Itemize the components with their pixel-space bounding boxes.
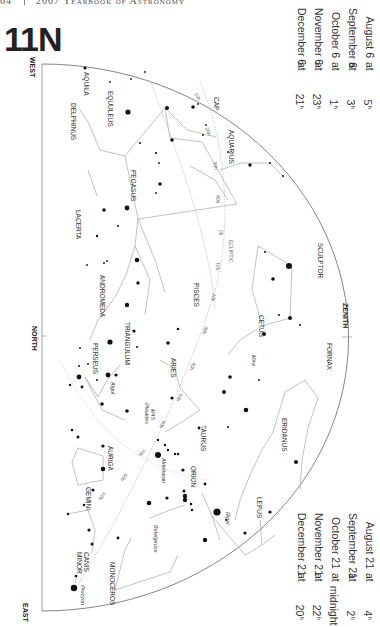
ecliptic-mark: 30h	[212, 161, 219, 170]
label-lacerta: LACERTA	[75, 210, 82, 240]
label-taurus: TAURUS	[200, 425, 207, 452]
ecliptic-mark: 10h	[215, 262, 222, 271]
label-m45: M45	[150, 409, 156, 421]
label-lepus: LEPUS	[256, 497, 263, 519]
label-triangulum: TRIANGULUM	[124, 322, 131, 365]
label-pisces: PISCES	[193, 283, 200, 308]
label-fornax: FORNAX	[326, 343, 333, 371]
label-perseus: PERSEUS	[92, 343, 99, 375]
label-pleiades: Pleiades	[144, 403, 150, 424]
label-gemini: GEMINI	[85, 487, 92, 510]
label-betelgeuse: Betelgeuse	[153, 525, 159, 553]
label-delphinus: DELPHINUS	[70, 103, 77, 141]
label-aquarius: AQUARIUS	[227, 130, 235, 165]
label-algol: Algol	[110, 381, 116, 395]
ecliptic-mark: 80h	[119, 472, 129, 482]
constellation-lines	[68, 108, 318, 590]
label-rigel: Rigel	[225, 512, 231, 525]
ecliptic-mark: 0h	[218, 230, 224, 236]
label-aries: ARIES	[170, 358, 177, 378]
ecliptic-mark: 40h	[188, 362, 197, 372]
ecliptic-mark: 70h	[137, 447, 147, 457]
label-mira: Mira	[251, 355, 257, 366]
label-canis-minor-2: MINOR	[76, 552, 83, 574]
label-orion: ORION	[190, 466, 197, 488]
label-sculptor: SCULPTOR	[317, 243, 324, 279]
label-canis-minor-1: CANIS	[83, 552, 90, 573]
ecliptic-mark: 30h	[201, 326, 210, 336]
label-eridanus: ERIDANUS	[281, 418, 288, 452]
label-aldebaran: Aldebaran	[161, 457, 167, 483]
label-andromeda: ANDROMEDA	[99, 275, 106, 318]
ecliptic-mark: 20h	[210, 293, 218, 303]
ecliptic-mark: 40h	[215, 195, 221, 204]
label-auriga: AURIGA	[107, 446, 114, 472]
label-cetus: CETUS	[258, 315, 265, 338]
label-pegasus: PEGASUS	[130, 170, 137, 202]
ecliptic-mark: 20h	[204, 126, 213, 136]
star-map: WEST NORTH EAST ZENITH AQUILA DELPHINUS …	[0, 0, 380, 627]
milky-way-line	[60, 360, 210, 480]
label-equuleus: EQUULEUS	[106, 91, 114, 127]
label-procyon: Procyon	[80, 585, 86, 605]
ecliptic-mark: 90h	[97, 491, 107, 501]
ecliptic-label: ECLIPTIC	[228, 240, 234, 263]
label-cap: CAP	[213, 97, 220, 110]
west-label: WEST	[29, 57, 36, 78]
zenith-label: ZENITH	[342, 303, 349, 328]
north-label: NORTH	[31, 326, 38, 351]
label-monoceros: MONOCEROS	[109, 562, 116, 606]
east-label: EAST	[22, 603, 29, 622]
label-aquila: AQUILA	[82, 72, 90, 97]
ecliptic-line	[75, 82, 225, 590]
ecliptic-mark: 60h	[158, 420, 167, 430]
